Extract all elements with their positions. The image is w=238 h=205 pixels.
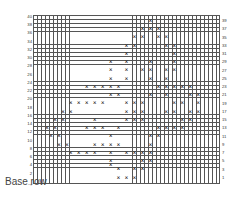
- stitch-mark-icon: ×: [45, 126, 49, 130]
- stitch-mark-icon: ×: [140, 69, 144, 73]
- stitch-mark-icon: ×: [188, 85, 192, 89]
- stitch-mark-icon: ×: [196, 102, 200, 106]
- stitch-mark-icon: ×: [85, 151, 89, 155]
- stitch-mark-icon: ×: [148, 159, 152, 163]
- row-label: 9: [222, 143, 232, 147]
- stitch-mark-icon: ×: [164, 36, 168, 40]
- row-label: 11: [222, 135, 232, 139]
- stitch-mark-icon: ×: [164, 85, 168, 89]
- base-row-arrow-icon: →: [27, 181, 33, 187]
- stitch-mark-icon: ×: [117, 143, 121, 147]
- stitch-mark-icon: ×: [164, 44, 168, 48]
- stitch-mark-icon: ×: [132, 44, 136, 48]
- stitch-mark-icon: ×: [109, 143, 113, 147]
- stitch-mark-icon: ×: [53, 126, 57, 130]
- stitch-mark-icon: ×: [172, 60, 176, 64]
- stitch-mark-icon: ×: [164, 110, 168, 114]
- row-label: 21: [222, 93, 232, 97]
- stitch-mark-icon: ×: [125, 151, 129, 155]
- row-label: 26: [24, 73, 32, 77]
- stitch-mark-icon: ×: [109, 69, 113, 73]
- stitch-mark-icon: ×: [109, 163, 113, 167]
- stitch-mark-icon: ×: [77, 151, 81, 155]
- stitch-mark-icon: ×: [117, 168, 121, 172]
- stitch-mark-icon: ×: [125, 77, 129, 81]
- stitch-mark-icon: ×: [140, 36, 144, 40]
- row-label: 36: [24, 31, 32, 35]
- stitch-mark-icon: ×: [180, 126, 184, 130]
- row-label: 35: [222, 36, 232, 40]
- stitch-mark-icon: ×: [172, 52, 176, 56]
- stitch-mark-icon: ×: [156, 27, 160, 31]
- row-label: 39: [222, 19, 232, 23]
- stitch-mark-icon: ×: [101, 126, 105, 130]
- stitch-mark-icon: ×: [164, 77, 168, 81]
- row-label: 17: [222, 110, 232, 114]
- stitch-mark-icon: ×: [132, 168, 136, 172]
- stitch-mark-icon: ×: [188, 93, 192, 97]
- stitch-mark-icon: ×: [140, 118, 144, 122]
- stitch-mark-icon: ×: [148, 69, 152, 73]
- stitch-mark-icon: ×: [61, 118, 65, 122]
- row-label: 37: [222, 27, 232, 31]
- stitch-mark-icon: ×: [53, 118, 57, 122]
- row-label: 13: [222, 126, 232, 130]
- stitch-mark-icon: ×: [196, 110, 200, 114]
- stitch-mark-icon: ×: [140, 159, 144, 163]
- stitch-mark-icon: ×: [77, 102, 81, 106]
- stitch-mark-icon: ×: [65, 143, 69, 147]
- stitch-mark-icon: ×: [57, 135, 61, 139]
- stitch-mark-icon: ×: [69, 110, 73, 114]
- row-label: 28: [24, 64, 32, 68]
- stitch-mark-icon: ×: [148, 135, 152, 139]
- stitch-mark-icon: ×: [109, 151, 113, 155]
- stitch-mark-icon: ×: [117, 126, 121, 130]
- row-label: 3: [222, 168, 232, 172]
- row-label: 5: [222, 159, 232, 163]
- stitch-mark-icon: ×: [148, 143, 152, 147]
- base-row-label: Base row: [5, 176, 47, 187]
- stitch-mark-icon: ×: [148, 93, 152, 97]
- stitch-mark-icon: ×: [93, 143, 97, 147]
- stitch-mark-icon: ×: [148, 151, 152, 155]
- stitch-mark-icon: ×: [49, 135, 53, 139]
- row-label: 40: [24, 15, 32, 19]
- stitch-mark-icon: ×: [93, 85, 97, 89]
- stitch-mark-icon: ×: [180, 102, 184, 106]
- stitch-mark-icon: ×: [148, 27, 152, 31]
- row-label: 7: [222, 151, 232, 155]
- row-label: 18: [24, 106, 32, 110]
- stitch-mark-icon: ×: [69, 151, 73, 155]
- stitch-mark-icon: ×: [125, 176, 129, 180]
- stitch-mark-icon: ×: [140, 102, 144, 106]
- stitch-mark-icon: ×: [132, 176, 136, 180]
- stitch-mark-icon: ×: [196, 93, 200, 97]
- stitch-mark-icon: ×: [101, 85, 105, 89]
- row-label: 25: [222, 77, 232, 81]
- stitch-mark-icon: ×: [164, 93, 168, 97]
- stitch-mark-icon: ×: [109, 135, 113, 139]
- row-label: 23: [222, 85, 232, 89]
- stitch-mark-icon: ×: [156, 85, 160, 89]
- row-label: 22: [24, 89, 32, 93]
- stitch-mark-icon: ×: [117, 93, 121, 97]
- row-label: 1: [222, 176, 232, 180]
- stitch-mark-icon: ×: [125, 44, 129, 48]
- stitch-mark-icon: ×: [172, 102, 176, 106]
- stitch-mark-icon: ×: [132, 151, 136, 155]
- stitch-mark-icon: ×: [148, 19, 152, 23]
- stitch-mark-icon: ×: [164, 126, 168, 130]
- stitch-mark-icon: ×: [156, 36, 160, 40]
- stitch-mark-icon: ×: [85, 85, 89, 89]
- row-label: 27: [222, 69, 232, 73]
- row-label: 29: [222, 60, 232, 64]
- stitch-mark-icon: ×: [125, 110, 129, 114]
- stitch-mark-icon: ×: [109, 85, 113, 89]
- stitch-mark-icon: ×: [188, 110, 192, 114]
- row-label: 32: [24, 48, 32, 52]
- stitch-mark-icon: ×: [156, 126, 160, 130]
- stitch-mark-icon: ×: [164, 69, 168, 73]
- stitch-mark-icon: ×: [117, 85, 121, 89]
- stitch-mark-icon: ×: [125, 60, 129, 64]
- row-label: 15: [222, 118, 232, 122]
